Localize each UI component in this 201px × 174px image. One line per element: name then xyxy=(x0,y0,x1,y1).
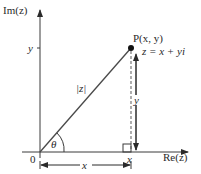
equation-label: z = x + yi xyxy=(141,45,185,57)
modulus-label: |z| xyxy=(76,82,86,94)
y-tick-label: y xyxy=(27,42,33,54)
complex-plane-diagram: Im(z) Re(z) 0 y |z| θ P(x, y) z = x + yi… xyxy=(0,0,201,174)
x-dimension-label: x xyxy=(81,159,87,171)
point-label: P(x, y) xyxy=(133,32,163,45)
angle-arc xyxy=(57,133,64,152)
imaginary-axis-label: Im(z) xyxy=(3,4,28,17)
real-axis-label: Re(z) xyxy=(163,151,188,164)
modulus-line xyxy=(40,48,131,152)
point-p xyxy=(128,45,134,51)
origin-label: 0 xyxy=(30,153,36,165)
angle-label: θ xyxy=(51,138,57,150)
right-angle-marker xyxy=(123,144,131,152)
y-dimension-label: y xyxy=(133,94,139,106)
